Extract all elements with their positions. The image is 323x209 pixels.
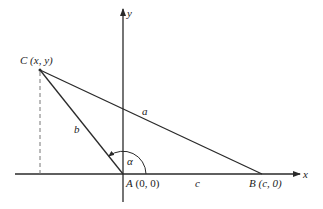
point-c-label: C (x, y) [20,55,53,66]
point-b-coords: (c, 0) [258,177,281,189]
point-c-coords: (x, y) [30,54,53,66]
side-b-label: b [74,124,80,135]
point-a-coords: (0, 0) [135,177,159,189]
point-a-label: A (0, 0) [126,178,159,189]
point-b-label: B (c, 0) [249,178,282,189]
side-a [40,70,262,174]
angle-alpha-label: α [127,156,133,167]
side-c-label: c [195,178,200,189]
side-a-label: a [142,106,148,117]
y-axis-label: y [127,8,132,19]
x-axis-label: x [303,169,308,180]
side-b [40,70,123,174]
point-c-dot [39,69,42,72]
